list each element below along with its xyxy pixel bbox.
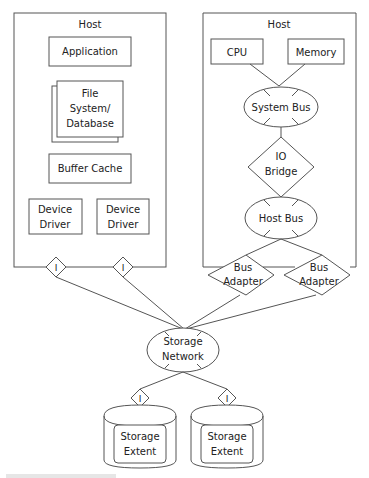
storage-network: Storage Network [147,328,219,372]
storage-1-line-2: Extent [124,446,157,457]
storage-network-line-2: Network [162,351,204,362]
bus-adapter-1-line-1: Bus [234,262,252,273]
bus-adapter-1-diamond [208,255,274,295]
storage-2-line-2: Extent [211,446,244,457]
cropped-caption [6,474,116,478]
storage-2-port-label: I [226,394,229,404]
storage-network-ellipse [147,328,219,372]
storage-extent-2: I Storage Extent [191,389,263,468]
bus-adapter-2-line-1: Bus [310,262,328,273]
storage-network-line-1: Storage [163,336,202,347]
file-system-line-3: Database [66,118,114,129]
storage-1-line-1: Storage [120,431,159,442]
right-host: Host CPU Memory System Bus IO Bridge Hos… [203,13,356,295]
left-port-2-label: I [122,263,125,273]
bus-adapter-2-line-2: Adapter [299,276,340,287]
right-host-label: Host [268,19,291,30]
system-bus-label: System Bus [252,102,311,113]
storage-architecture-diagram: Host Application File System/ Database B… [0,0,369,478]
device-driver-2-line-2: Driver [108,219,140,230]
buffer-cache-label: Buffer Cache [58,163,123,174]
storage-2-line-1: Storage [207,431,246,442]
storage-extent-1: I Storage Extent [104,389,176,468]
cpu-label: CPU [227,47,247,58]
device-driver-2-line-1: Device [106,204,140,215]
io-bridge-line-1: IO [276,151,287,162]
bus-adapter-2-diamond [284,255,350,295]
bus-adapter-1-line-2: Adapter [223,276,264,287]
host-bus-label: Host Bus [259,213,303,224]
file-system-line-1: File [82,88,99,99]
storage-1-port-label: I [139,394,142,404]
device-driver-1-line-1: Device [38,204,72,215]
file-system-database-box: File System/ Database [52,81,123,142]
application-label: Application [62,46,118,57]
memory-label: Memory [296,47,337,58]
left-host: Host Application File System/ Database B… [14,13,166,277]
left-host-label: Host [79,19,102,30]
io-bridge-line-2: Bridge [265,166,298,177]
file-system-line-2: System/ [70,103,111,114]
left-port-1-label: I [55,263,58,273]
device-driver-1-line-2: Driver [40,219,72,230]
